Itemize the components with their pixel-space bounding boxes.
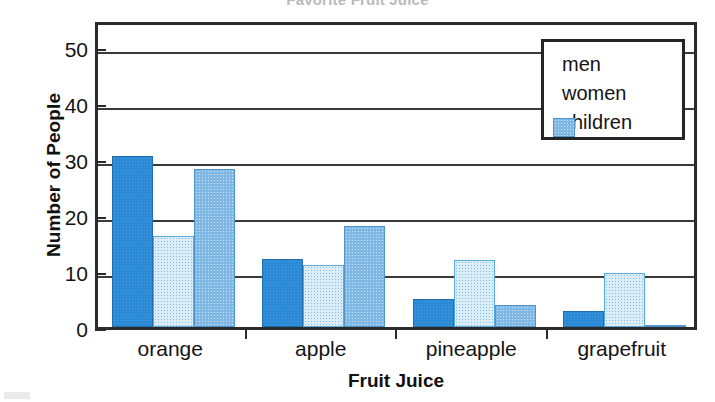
bar-pineapple-children bbox=[495, 305, 536, 327]
legend-item-children[interactable]: children bbox=[553, 107, 682, 136]
bar-orange-men bbox=[112, 156, 153, 327]
y-tick-mark-50 bbox=[95, 49, 106, 51]
x-axis-title: Fruit Juice bbox=[95, 370, 697, 392]
legend-item-women[interactable]: women bbox=[553, 78, 682, 107]
y-tick-label-10: 10 bbox=[28, 263, 88, 284]
y-tick-label-30: 30 bbox=[28, 151, 88, 172]
chart-title: Favorite Fruit Juice bbox=[0, 0, 715, 8]
bar-grapefruit-children bbox=[645, 325, 686, 327]
y-tick-mark-0 bbox=[95, 329, 106, 331]
bar-chart-figure: Favorite Fruit Juice Number of People Fr… bbox=[0, 0, 715, 402]
gridline-20 bbox=[98, 220, 694, 222]
legend-swatch-children bbox=[553, 118, 575, 137]
y-tick-label-50: 50 bbox=[28, 39, 88, 60]
y-tick-mark-30 bbox=[95, 161, 106, 163]
bar-apple-children bbox=[344, 226, 385, 327]
legend-item-men[interactable]: men bbox=[553, 49, 682, 78]
y-tick-label-20: 20 bbox=[28, 207, 88, 228]
bar-pineapple-men bbox=[413, 299, 454, 327]
bar-grapefruit-women bbox=[604, 273, 645, 327]
x-tick-label-grapefruit: grapefruit bbox=[527, 338, 715, 359]
bar-orange-children bbox=[194, 169, 235, 327]
bar-orange-women bbox=[153, 236, 194, 327]
legend-label-women: women bbox=[562, 83, 626, 103]
chart-legend: men women children bbox=[541, 39, 685, 140]
bar-grapefruit-men bbox=[563, 311, 604, 327]
y-tick-label-0: 0 bbox=[28, 319, 88, 340]
bar-pineapple-women bbox=[454, 260, 495, 327]
y-tick-mark-10 bbox=[95, 273, 106, 275]
bar-apple-men bbox=[262, 259, 303, 327]
legend-label-men: men bbox=[562, 54, 601, 74]
scan-artifact bbox=[4, 392, 30, 399]
gridline-30 bbox=[98, 164, 694, 166]
y-tick-mark-20 bbox=[95, 217, 106, 219]
y-tick-label-40: 40 bbox=[28, 95, 88, 116]
bar-apple-women bbox=[303, 265, 344, 327]
y-tick-mark-40 bbox=[95, 105, 106, 107]
